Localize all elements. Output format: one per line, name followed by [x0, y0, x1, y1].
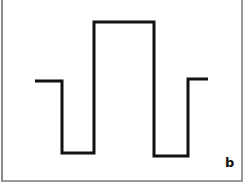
waveform-plot	[0, 0, 243, 184]
waveform-line	[35, 22, 208, 156]
panel-label: b	[225, 155, 234, 170]
